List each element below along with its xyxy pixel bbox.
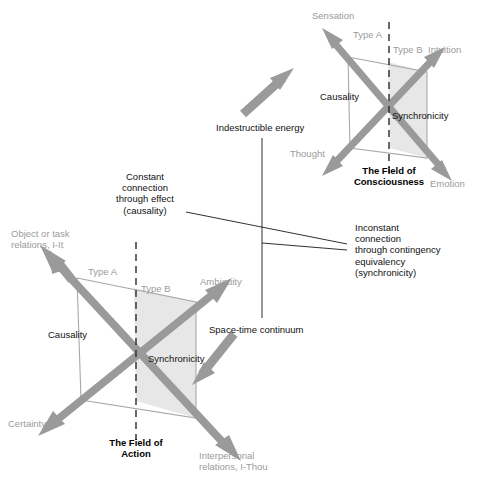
upper-label-type-a: Type A — [353, 29, 382, 40]
leader-line-synchronicity — [262, 243, 347, 250]
lower-field-caption: The Field of Action — [82, 437, 190, 459]
upper-label-thought: Thought — [290, 148, 325, 159]
lower-label-causality: Causality — [48, 329, 87, 340]
annotation-indestructible-energy: Indestructible energy — [216, 122, 304, 133]
lower-label-ambiguity: Ambiguity — [200, 276, 242, 287]
lower-label-synchronicity: Synchronicity — [148, 353, 205, 364]
lower-label-type-b: Type B — [141, 283, 171, 294]
upper-label-type-b: Type B — [393, 44, 423, 55]
upper-field-caption: The Field of Consciousness — [333, 165, 445, 187]
lower-label-interpersonal-relations: Interpersonal relations, I-Thou — [199, 450, 268, 472]
lower-label-object-task-relations: Object or task relations, I-It — [11, 228, 70, 250]
upper-label-sensation: Sensation — [312, 10, 354, 21]
leader-line-causality — [186, 212, 347, 244]
lower-label-type-a: Type A — [88, 266, 117, 277]
lower-label-certainty: Certainty — [8, 418, 46, 429]
upper-label-intuition: Intuition — [428, 44, 461, 55]
arrow-up-indestructible-energy — [243, 68, 294, 114]
annotation-constant-connection: Constant connection through effect (caus… — [100, 171, 190, 216]
upper-label-causality: Causality — [320, 91, 359, 102]
upper-label-synchronicity: Synchronicity — [392, 110, 449, 121]
annotation-space-time-continuum: Space-time continuum — [209, 324, 304, 335]
annotation-inconstant-connection: Inconstant connection through contingenc… — [355, 222, 441, 278]
